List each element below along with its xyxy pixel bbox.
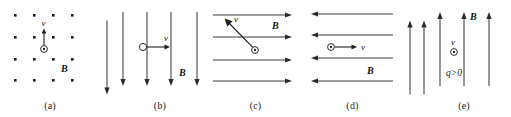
field-dot-out-of-page-icon [52,58,55,61]
field-arrowhead-right-icon [285,57,292,62]
field-dot-out-of-page-icon [71,58,74,61]
charge-sign-label-e: q>0 [446,68,462,78]
panel-e-first-field-arrow [417,0,431,117]
field-arrowhead-right-icon [285,12,292,17]
velocity-arrowhead-icon [352,45,358,50]
panel-a-diagram: v B [0,0,100,100]
charge-velocity-group-b: v [139,33,170,51]
field-arrowhead-down-icon [168,79,173,86]
charge-dot-core-icon [330,46,332,48]
field-dot-out-of-page-icon [33,79,36,82]
field-dot-out-of-page-icon [33,36,36,39]
charge-velocity-group-d: v [328,42,365,52]
charge-dot-core-icon [43,48,45,50]
field-dot-out-of-page-icon [52,36,55,39]
velocity-arrow-diagonal-c [229,23,253,48]
charge-velocity-group-c: v [225,14,259,53]
field-arrowhead-up-icon [461,12,466,19]
field-label-b: B [178,67,186,78]
field-arrowhead-down-icon [194,79,199,86]
field-dot-out-of-page-icon [33,58,36,61]
field-arrowhead-up-icon [407,21,412,28]
field-dot-out-of-page-icon [71,79,74,82]
field-label-d: B [366,65,374,76]
field-arrowhead-right-icon [285,78,292,83]
velocity-label-e: v [451,37,455,47]
field-arrowhead-up-icon [421,21,426,28]
panel-c: v B (c) [206,0,305,117]
field-label-a: B [60,63,68,74]
field-dot-out-of-page-icon [33,14,36,17]
panel-e: v q>0 B (e) [417,0,511,117]
panel-d-diagram: v B [305,0,400,100]
field-dot-out-of-page-icon [52,14,55,17]
field-arrowhead-down-icon [104,88,109,95]
field-dot-out-of-page-icon [14,14,17,17]
field-label-c: B [271,20,279,31]
field-arrowhead-left-icon [311,32,318,37]
panel-c-diagram: v B [206,0,305,100]
panel-d-extra-field-arrow [403,0,417,117]
physics-figure: v B (a) [0,0,511,117]
panel-label-b: (b) [114,100,206,111]
field-label-e: B [469,11,477,22]
field-arrowhead-right-icon [285,34,292,39]
field-arrowhead-up-icon [437,12,442,19]
panel-label-d: (d) [305,100,400,111]
charge-velocity-group-a: v [41,18,48,52]
velocity-label-d: v [361,42,365,52]
field-lines-down-group-b [120,12,199,86]
panel-label-c: (c) [206,100,305,111]
velocity-label-b: v [164,33,168,43]
field-arrowhead-left-icon [311,11,318,16]
panel-label-a: (a) [0,100,100,111]
panel-a-extra-field-arrow [100,0,114,117]
velocity-arrowhead-icon [165,45,171,50]
panel-label-e: (e) [417,100,511,111]
panel-b: v B (b) [114,0,206,117]
field-dot-out-of-page-icon [52,79,55,82]
field-dot-out-of-page-icon [14,58,17,61]
velocity-label-c: v [234,14,238,24]
field-arrowhead-down-icon [120,79,125,86]
charge-dot-core-icon [453,51,455,53]
field-dot-out-of-page-icon [14,36,17,39]
velocity-label-a: v [42,18,46,28]
charge-velocity-group-e: v q>0 [446,37,462,78]
field-arrowhead-left-icon [311,78,318,83]
field-arrowhead-up-icon [486,12,491,19]
panel-d: v B (d) [305,0,400,117]
charge-open-circle-icon [139,43,146,50]
field-arrowhead-left-icon [311,55,318,60]
field-dot-out-of-page-icon [14,79,17,82]
field-dot-out-of-page-icon [71,36,74,39]
field-dot-out-of-page-icon [71,14,74,17]
charge-dot-core-icon [254,49,256,51]
panel-b-diagram: v B [114,0,206,100]
field-arrowhead-down-icon [144,79,149,86]
panel-a: v B (a) [0,0,100,117]
velocity-arrowhead-icon [42,29,47,34]
panel-e-diagram: v q>0 B [417,0,511,100]
